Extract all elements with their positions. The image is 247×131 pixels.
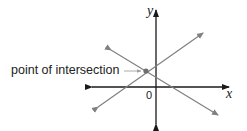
- x-axis-label: x: [226, 86, 232, 102]
- point-of-intersection-label: point of intersection: [11, 63, 119, 77]
- origin-label: 0: [146, 89, 152, 101]
- intersection-point: [143, 68, 148, 73]
- y-axis-label: y: [147, 3, 153, 19]
